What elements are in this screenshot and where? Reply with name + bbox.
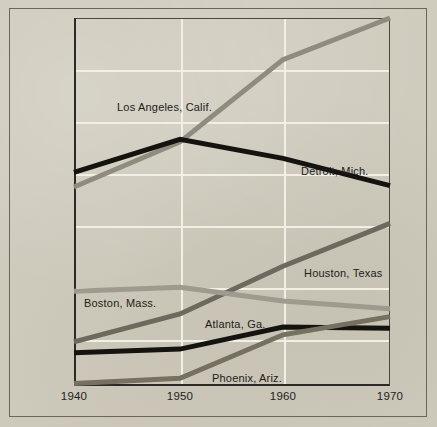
- x-tick-label: 1970: [377, 390, 403, 402]
- series-lines-group: [74, 18, 390, 386]
- series-label: Atlanta, Ga.: [205, 318, 266, 330]
- series-label: Boston, Mass.: [84, 297, 156, 309]
- series-line: [74, 139, 390, 185]
- x-tick-label: 1960: [270, 390, 296, 402]
- x-axis-tick-labels: 1940195019601970: [0, 390, 437, 410]
- chart-container: 2,8002,6002,2001,6001,200800400 19401950…: [0, 0, 437, 427]
- series-label: Los Angeles, Calif.: [117, 101, 212, 113]
- series-label: Detroit, Mich.: [301, 165, 369, 177]
- x-tick-label: 1950: [167, 390, 193, 402]
- series-label: Houston, Texas: [304, 267, 382, 279]
- series-label: Phoenix, Ariz.: [212, 372, 282, 384]
- x-tick-label: 1940: [61, 390, 87, 402]
